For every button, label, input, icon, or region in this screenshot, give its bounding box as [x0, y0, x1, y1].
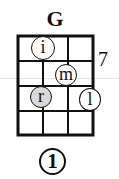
finger-dot-middle: m [55, 64, 77, 86]
finger-dot-ring: r [30, 86, 52, 108]
finger-label: i [40, 38, 45, 56]
finger-dot-index: i [31, 36, 55, 60]
position-marker-number: 1 [47, 149, 58, 174]
chord-diagram: G 7 i m r l 1 [0, 0, 119, 179]
finger-label: r [38, 87, 44, 105]
finger-dot-little: l [79, 88, 101, 111]
finger-label: m [59, 65, 73, 83]
position-marker-circle: 1 [39, 148, 66, 175]
finger-label: l [87, 90, 92, 108]
fret-number-label: 7 [98, 49, 108, 69]
